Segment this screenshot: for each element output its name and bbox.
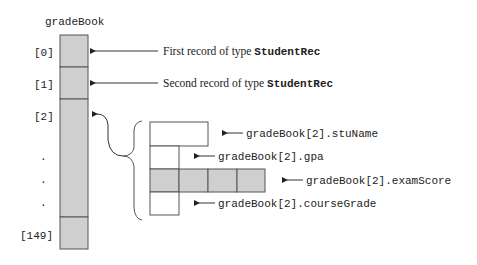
field-examScore-cell-0 xyxy=(150,169,179,192)
field-courseGrade-box xyxy=(150,192,179,215)
curved-arrow-record-2 xyxy=(97,114,123,156)
brace-upper xyxy=(123,121,142,156)
field-gpa-box xyxy=(150,146,179,169)
gradebook-diagram: gradeBook [0] [1] [2] . . . [149] First … xyxy=(0,0,477,265)
index-label-149: [149] xyxy=(20,230,53,242)
index-label-0: [0] xyxy=(34,47,54,59)
array-name: gradeBook xyxy=(45,16,105,28)
field-examScore-cell-3 xyxy=(237,169,265,192)
array-cell-2-to-148 xyxy=(60,99,88,217)
index-label-1: [1] xyxy=(34,79,54,91)
label-gpa: gradeBook[2].gpa xyxy=(218,151,324,163)
label-examScore: gradeBook[2].examScore xyxy=(306,175,451,187)
array-column xyxy=(60,35,88,249)
array-cell-0 xyxy=(60,35,88,67)
record-1-label: Second record of type StudentRec xyxy=(163,77,333,90)
record-0-label: First record of type StudentRec xyxy=(163,45,320,58)
label-courseGrade: gradeBook[2].courseGrade xyxy=(218,198,376,210)
field-stuName-box xyxy=(150,122,208,146)
ellipsis-dot-3: . xyxy=(40,197,47,209)
index-label-2: [2] xyxy=(34,111,54,123)
array-cell-1 xyxy=(60,67,88,99)
brace-lower xyxy=(123,156,142,220)
array-cell-149 xyxy=(60,217,88,249)
field-examScore-cell-1 xyxy=(179,169,208,192)
label-stuName: gradeBook[2].stuName xyxy=(246,128,378,140)
ellipsis-dot-2: . xyxy=(40,174,47,186)
field-examScore-cell-2 xyxy=(208,169,237,192)
ellipsis-dot-1: . xyxy=(40,151,47,163)
